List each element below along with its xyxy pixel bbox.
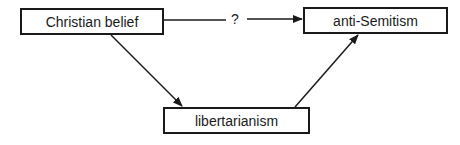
node-label: Christian belief [46,14,139,30]
edge-libertarianism-to-anti [295,35,358,107]
node-label: anti-Semitism [333,13,418,29]
node-anti-semitism: anti-Semitism [303,7,448,34]
node-label: libertarianism [195,113,278,129]
node-christian-belief: Christian belief [20,8,164,35]
edge-label-question: ? [231,11,239,27]
node-libertarianism: libertarianism [163,107,310,134]
edge-christian-to-libertarianism [111,35,182,106]
